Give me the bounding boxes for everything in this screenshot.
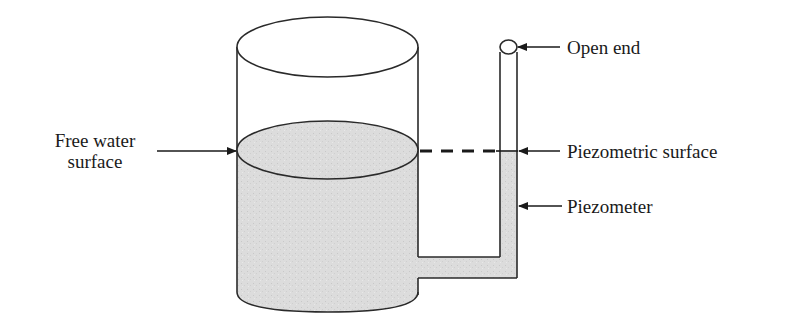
open-end-circle — [500, 40, 517, 54]
free-water-surface — [237, 121, 418, 179]
free-water-surface-label-line2: surface — [30, 151, 160, 172]
piezometric-surface-label: Piezometric surface — [567, 141, 717, 162]
tank-top-rim — [237, 17, 418, 77]
free-water-surface-label: Free water surface — [30, 130, 160, 172]
open-end-label: Open end — [567, 37, 640, 58]
free-water-surface-label-line1: Free water — [30, 130, 160, 151]
piezometer-label: Piezometer — [567, 196, 652, 217]
